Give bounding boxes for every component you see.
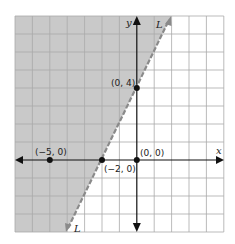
line-label-bottom: L [73,223,81,234]
point-neg2-0 [99,157,105,163]
x-axis-label: x [216,145,222,156]
coordinate-plane: y x L L (−5, 0) (−2, 0) (0, 0) (0, 4) [0,0,235,244]
y-axis-label: y [125,17,132,28]
y-axis-down-arrow-icon [133,223,141,232]
x-axis-right-arrow-icon [216,156,224,164]
point-origin [134,157,140,163]
label-point-neg5-0: (−5, 0) [35,147,67,157]
line-label-top: L [155,19,163,30]
label-point-0-4: (0, 4) [111,78,135,88]
label-point-neg2-0: (−2, 0) [104,164,136,174]
label-point-origin: (0, 0) [140,148,164,158]
point-neg5-0 [47,157,53,163]
